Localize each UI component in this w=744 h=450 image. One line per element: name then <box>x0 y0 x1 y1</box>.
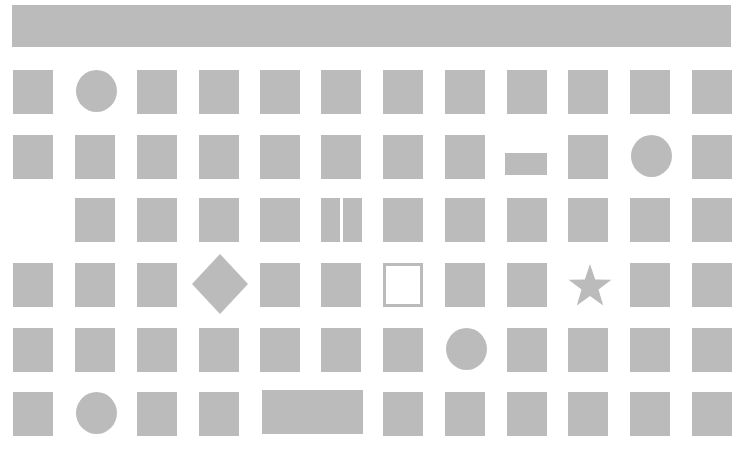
shape-r3-c5-square <box>321 263 361 307</box>
shape-r0-c0-square <box>13 70 53 114</box>
shape-r5-c4-wide-bar <box>262 390 363 434</box>
shape-r1-c1-square <box>75 135 115 179</box>
shape-r2-c8-square <box>507 198 547 242</box>
shape-r2-c5-split-left <box>321 198 340 242</box>
shape-r0-c5-square <box>321 70 361 114</box>
shape-r4-c2-square <box>137 328 177 372</box>
shape-r0-c9-square <box>568 70 608 114</box>
shape-r4-c11-square <box>692 328 732 372</box>
shape-r0-c11-square <box>692 70 732 114</box>
shape-r3-c10-square <box>630 263 670 307</box>
shape-r4-c1-square <box>75 328 115 372</box>
shape-r5-c1-circle <box>76 392 117 434</box>
shape-r4-c8-square <box>507 328 547 372</box>
shape-r4-c4-square <box>260 328 300 372</box>
shape-r0-c3-square <box>199 70 239 114</box>
shape-r5-c9-square <box>568 392 608 436</box>
shape-r0-c7-square <box>445 70 485 114</box>
shape-r4-c9-square <box>568 328 608 372</box>
shape-r0-c1-circle <box>76 70 117 112</box>
shape-r1-c0-square <box>13 135 53 179</box>
shape-r3-c3-diamond <box>192 254 248 314</box>
shape-r3-c4-square <box>260 263 300 307</box>
shape-r2-c10-square <box>630 198 670 242</box>
shape-r2-c1-square <box>75 198 115 242</box>
shape-r5-c11-square <box>692 392 732 436</box>
shape-r0-c2-square <box>137 70 177 114</box>
shape-r1-c10-circle <box>631 135 672 177</box>
shape-r1-c3-square <box>199 135 239 179</box>
shape-r3-c7-square <box>445 263 485 307</box>
shape-r3-c8-square <box>507 263 547 307</box>
shape-r2-c6-square <box>383 198 423 242</box>
shape-r5-c10-square <box>630 392 670 436</box>
shape-r1-c8-short-bar <box>505 153 547 175</box>
shape-r5-c6-square <box>383 392 423 436</box>
shape-r0-c4-square <box>260 70 300 114</box>
shape-r0-c10-square <box>630 70 670 114</box>
shape-r3-c9-star-icon <box>568 264 612 307</box>
shape-r1-c5-square <box>321 135 361 179</box>
shape-r4-c6-square <box>383 328 423 372</box>
shape-r2-c9-square <box>568 198 608 242</box>
shape-r2-c3-square <box>199 198 239 242</box>
shape-r2-c5-split-right <box>343 198 362 242</box>
shape-r3-c0-square <box>13 263 53 307</box>
shape-r1-c7-square <box>445 135 485 179</box>
shape-r2-c4-square <box>260 198 300 242</box>
shape-r4-c0-square <box>13 328 53 372</box>
shape-r2-c11-square <box>692 198 732 242</box>
shape-r3-c2-square <box>137 263 177 307</box>
shape-r1-c9-square <box>568 135 608 179</box>
top-banner-bar <box>12 5 731 47</box>
shape-r4-c5-square <box>321 328 361 372</box>
shape-r0-c6-square <box>383 70 423 114</box>
shape-r5-c7-square <box>445 392 485 436</box>
shape-r1-c2-square <box>137 135 177 179</box>
shape-r5-c8-square <box>507 392 547 436</box>
shape-r1-c6-square <box>383 135 423 179</box>
shape-r5-c3-square <box>199 392 239 436</box>
shape-r0-c8-square <box>507 70 547 114</box>
shape-r2-c7-square <box>445 198 485 242</box>
shape-r3-c1-square <box>75 263 115 307</box>
shape-r4-c3-square <box>199 328 239 372</box>
shape-r1-c11-square <box>692 135 732 179</box>
shape-r5-c2-square <box>137 392 177 436</box>
shape-grid-canvas <box>0 0 744 450</box>
shape-r4-c7-circle <box>446 328 487 370</box>
shape-r3-c6-outline-square <box>383 263 423 307</box>
shape-r4-c10-square <box>630 328 670 372</box>
shape-r2-c2-square <box>137 198 177 242</box>
shape-r1-c4-square <box>260 135 300 179</box>
shape-r5-c0-square <box>13 392 53 436</box>
shape-r3-c11-square <box>692 263 732 307</box>
